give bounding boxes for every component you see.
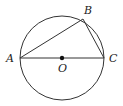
circle-diagram: A B C O (0, 0, 123, 106)
label-c: C (109, 52, 118, 65)
center-point-o (60, 56, 64, 60)
chord-bc (83, 19, 104, 58)
label-o: O (58, 62, 67, 75)
chord-ab (20, 19, 83, 58)
label-b: B (83, 4, 92, 17)
label-a: A (5, 52, 14, 65)
